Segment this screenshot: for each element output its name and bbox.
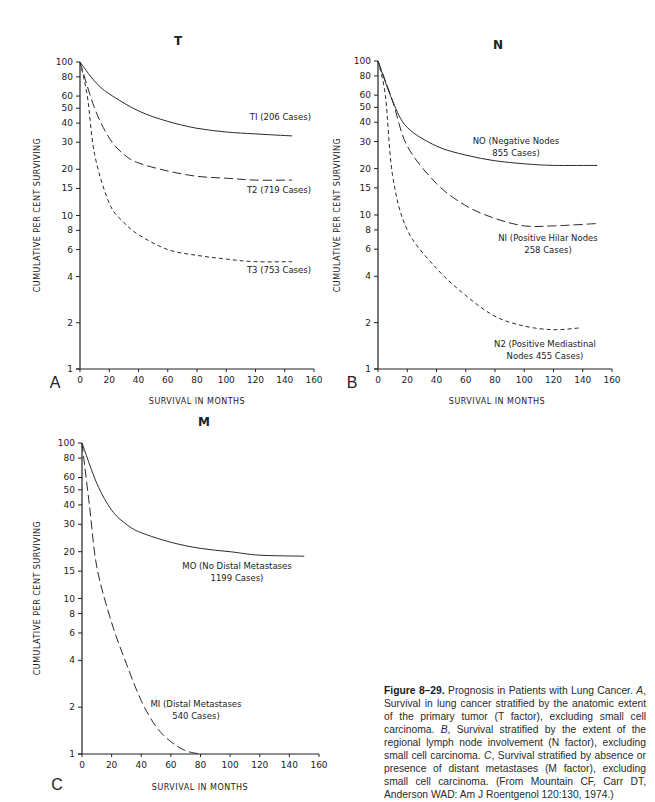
series-label: N2 (Positive Mediastinal (494, 339, 596, 349)
x-tick-label: 120 (545, 375, 562, 385)
series-label: 1199 Cases) (211, 573, 264, 583)
x-tick-label: 40 (431, 375, 443, 385)
panel-letter: A (50, 374, 61, 391)
y-tick-label: 2 (67, 318, 73, 328)
y-tick-label: 8 (69, 609, 75, 619)
chart-panel-b: 1246810152030405060801000204060801001201… (333, 38, 621, 406)
y-tick-label: 20 (360, 164, 372, 174)
series-label: TI (206 Cases) (249, 112, 311, 122)
figure-caption: Figure 8–29. Prognosis in Patients with … (384, 684, 646, 801)
y-tick-label: 20 (62, 164, 74, 174)
x-tick-label: 0 (375, 375, 381, 385)
y-tick-label: 15 (360, 183, 371, 193)
x-axis-title: SURVIVAL IN MONTHS (149, 397, 245, 406)
series-line-2 (80, 62, 292, 262)
x-tick-label: 140 (276, 375, 293, 385)
y-tick-label: 40 (360, 117, 372, 127)
x-tick-label: 0 (77, 375, 83, 385)
y-tick-label: 2 (365, 318, 371, 328)
series-label: T3 (753 Cases) (246, 265, 311, 275)
y-tick-label: 50 (64, 485, 76, 495)
y-tick-label: 40 (64, 500, 76, 510)
x-tick-label: 160 (603, 375, 620, 385)
y-tick-label: 100 (56, 57, 73, 67)
x-tick-label: 60 (165, 760, 177, 770)
y-tick-label: 8 (365, 225, 371, 235)
y-tick-label: 6 (365, 244, 371, 254)
x-tick-label: 60 (162, 375, 174, 385)
x-axis-title: SURVIVAL IN MONTHS (449, 397, 545, 406)
y-tick-label: 10 (360, 210, 372, 220)
x-tick-label: 0 (79, 760, 85, 770)
y-tick-label: 80 (360, 71, 372, 81)
panel-title: N (493, 38, 503, 52)
x-tick-label: 60 (460, 375, 472, 385)
series-line-0 (80, 62, 292, 136)
series-label: Nodes 455 Cases) (507, 351, 584, 361)
y-tick-label: 80 (64, 453, 76, 463)
figure-canvas: 1246810152030405060801000204060801001201… (0, 0, 655, 802)
y-axis-title: CUMULATIVE PER CENT SURVIVING (33, 138, 42, 292)
x-tick-label: 100 (222, 760, 239, 770)
y-tick-label: 30 (62, 137, 74, 147)
y-tick-label: 30 (360, 137, 372, 147)
panel-title: M (198, 415, 210, 429)
x-tick-label: 20 (402, 375, 414, 385)
y-tick-label: 20 (64, 547, 76, 557)
y-tick-label: 80 (62, 72, 74, 82)
y-tick-label: 100 (354, 56, 371, 66)
y-tick-label: 60 (62, 91, 74, 101)
panel-title: T (174, 34, 183, 48)
panel-letter: B (347, 374, 358, 391)
x-tick-label: 80 (191, 375, 203, 385)
y-tick-label: 15 (64, 566, 75, 576)
y-tick-label: 50 (62, 103, 74, 113)
x-tick-label: 160 (305, 375, 322, 385)
x-tick-label: 120 (251, 760, 268, 770)
y-tick-label: 50 (360, 102, 372, 112)
y-tick-label: 2 (69, 702, 75, 712)
chart-panel-c: 1246810152030405060801000204060801001201… (33, 415, 328, 793)
caption-body: A, Survival in lung cancer stratified by… (384, 685, 646, 800)
x-tick-label: 80 (489, 375, 501, 385)
series-label: 540 Cases) (172, 711, 219, 721)
caption-label: Figure 8–29. (384, 685, 445, 696)
x-tick-label: 140 (574, 375, 591, 385)
y-tick-label: 30 (64, 519, 76, 529)
y-tick-label: 8 (67, 225, 73, 235)
series-line-0 (378, 61, 597, 165)
series-label: NI (Positive Hilar Nodes (498, 233, 598, 243)
series-label: 258 Cases) (524, 245, 571, 255)
x-axis-title: SURVIVAL IN MONTHS (152, 783, 248, 792)
y-tick-label: 60 (360, 90, 372, 100)
panel-letter: C (51, 776, 63, 793)
x-tick-label: 100 (218, 375, 235, 385)
y-tick-label: 10 (62, 211, 74, 221)
x-tick-label: 80 (195, 760, 207, 770)
y-tick-label: 100 (58, 438, 75, 448)
y-tick-label: 1 (365, 364, 371, 374)
x-tick-label: 140 (281, 760, 298, 770)
y-tick-label: 60 (64, 472, 76, 482)
y-axis-title: CUMULATIVE PER CENT SURVIVING (33, 521, 42, 675)
y-tick-label: 10 (64, 594, 76, 604)
x-tick-label: 40 (136, 760, 148, 770)
x-tick-label: 20 (106, 760, 118, 770)
y-tick-label: 4 (365, 271, 371, 281)
x-tick-label: 120 (247, 375, 264, 385)
x-tick-label: 100 (516, 375, 533, 385)
series-label: MO (No Distal Metastases (182, 561, 292, 571)
y-tick-label: 15 (62, 183, 73, 193)
y-tick-label: 40 (62, 118, 74, 128)
y-tick-label: 6 (67, 245, 73, 255)
x-tick-label: 20 (104, 375, 116, 385)
y-axis-title: CUMULATIVE PER CENT SURVIVING (333, 138, 342, 292)
series-label: MI (Distal Metastases (151, 699, 243, 709)
chart-panel-a: 1246810152030405060801000204060801001201… (33, 34, 323, 406)
series-label: NO (Negative Nodes (473, 136, 560, 146)
series-line-0 (82, 443, 304, 556)
x-tick-label: 160 (310, 760, 327, 770)
x-tick-label: 40 (133, 375, 145, 385)
y-tick-label: 4 (67, 272, 73, 282)
y-tick-label: 4 (69, 655, 75, 665)
